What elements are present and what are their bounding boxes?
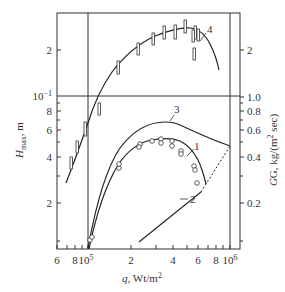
curve-label-1: 1 (194, 140, 200, 152)
y-tick-label: 4 (47, 151, 53, 163)
curve-3 (88, 122, 230, 248)
curve-1 (89, 139, 206, 249)
y-tick-label: 0.2 (247, 197, 261, 209)
y-tick-label: 2 (247, 44, 253, 56)
x-tick-labels: 6 8 105 2 4 6 8 106 (54, 253, 237, 266)
x-tick-label: 8 (72, 254, 78, 266)
x-axis-ticks (57, 245, 230, 249)
curve-4 (66, 28, 219, 183)
y-left-tick-labels: 2 10−1 8 6 4 2 (32, 44, 52, 209)
y-right-ticks (240, 50, 244, 241)
y-tick-label: 6 (47, 124, 53, 136)
curve-1-markers (88, 137, 200, 243)
y-right-axis-title: GG, kg/(m2 sec) (266, 114, 280, 186)
y-tick-label: 10−1 (32, 89, 52, 102)
curve-labels: 4 3 1 2 (170, 23, 213, 205)
curve-label-3: 3 (174, 103, 180, 115)
chart: 6 8 105 2 4 6 8 106 q, Wt/m2 2 10−1 8 6 … (0, 0, 285, 292)
y-tick-label: 2 (47, 44, 53, 56)
x-tick-label: 106 (223, 253, 238, 266)
y-tick-label: 2 (47, 197, 53, 209)
curve-2-dashed (201, 146, 230, 192)
x-tick-label: 105 (79, 253, 94, 266)
y-left-ticks (57, 50, 61, 241)
y-tick-label: 0.6 (247, 124, 261, 136)
x-tick-label: 6 (195, 254, 201, 266)
y-tick-label: 1.0 (247, 91, 261, 103)
y-tick-label: 0.4 (247, 151, 261, 163)
y-tick-label: 0.8 (247, 105, 261, 117)
x-tick-label: 2 (128, 254, 134, 266)
y-tick-label: 8 (47, 105, 53, 117)
curve-label-2: 2 (190, 193, 196, 205)
y-right-tick-labels: 2 1.0 0.8 0.6 0.4 0.2 (247, 44, 261, 209)
y-left-axis-title: Hmax, m (13, 122, 28, 159)
x-axis-title: q, Wt/m2 (122, 271, 162, 284)
curve-label-4: 4 (207, 23, 213, 35)
x-tick-label: 8 (213, 254, 219, 266)
x-tick-label: 4 (170, 254, 176, 266)
x-tick-label: 6 (54, 254, 60, 266)
